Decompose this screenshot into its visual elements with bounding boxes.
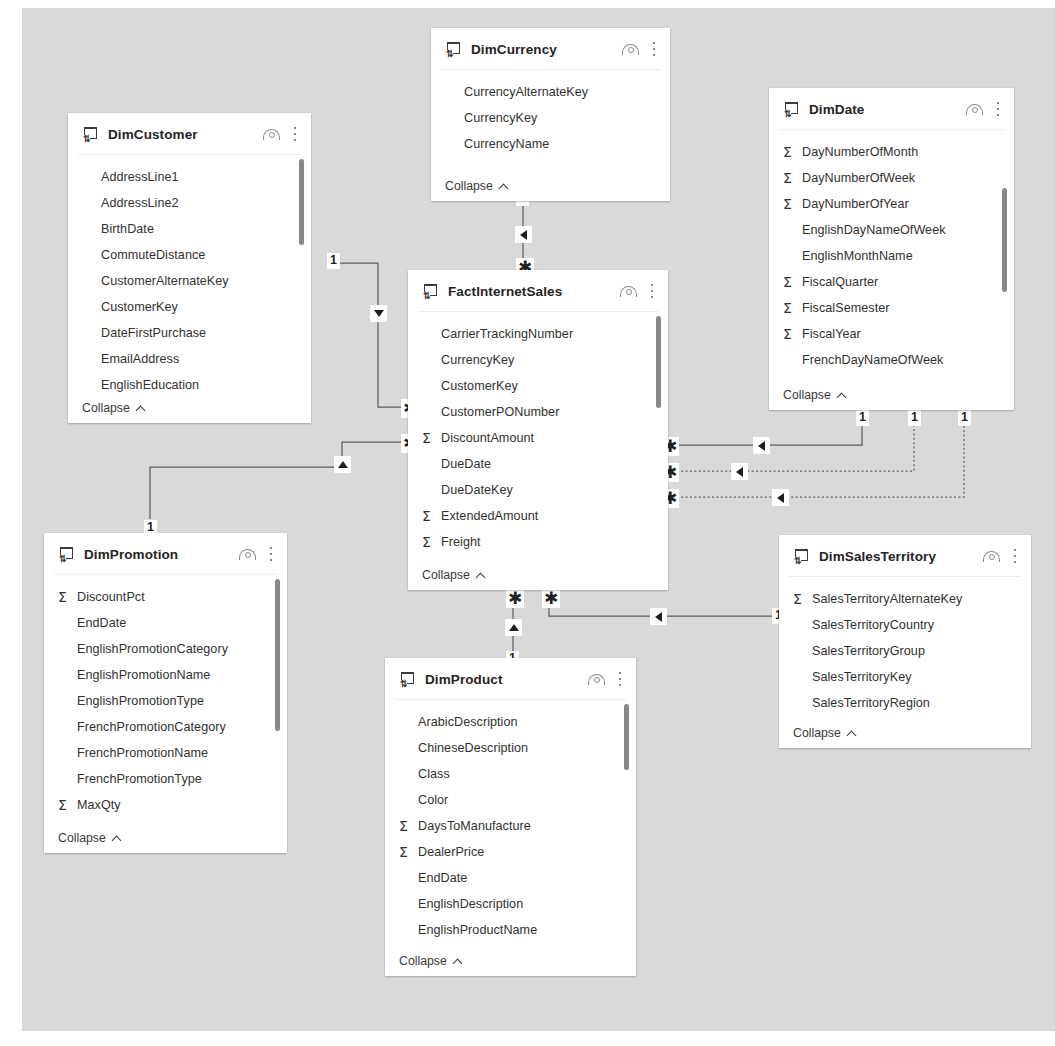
cross-filter-arrow-dimproduct[interactable] [505, 619, 522, 636]
field-row[interactable]: ΣSalesTerritoryKey [779, 664, 1031, 690]
field-row[interactable]: ΣSalesTerritoryRegion [779, 690, 1031, 716]
field-row[interactable]: ΣBirthDate [68, 216, 311, 242]
field-row[interactable]: ΣSalesTerritoryAlternateKey [779, 586, 1031, 612]
more-options-icon[interactable] [289, 126, 301, 143]
field-row[interactable]: ΣArabicDescription [385, 709, 636, 735]
field-row[interactable]: ΣCustomerAlternateKey [68, 268, 311, 294]
field-row[interactable]: ΣCustomerPONumber [408, 399, 668, 425]
field-row[interactable]: ΣEnglishPromotionCategory [44, 636, 287, 662]
more-options-icon[interactable] [646, 283, 658, 300]
collapse-button[interactable]: Collapse [44, 823, 287, 853]
field-row[interactable]: ΣSalesTerritoryCountry [779, 612, 1031, 638]
model-diagram-canvas[interactable]: 1 ✱ 1 ✱ 1 ✱ ✱ 1 ✱ 1 ✱ 1 ✱ 1 ✱ 1 ⇅ DimCur… [22, 8, 1055, 1031]
vertical-scrollbar[interactable] [1002, 188, 1007, 292]
field-row[interactable]: ΣEnglishPromotionType [44, 688, 287, 714]
cross-filter-arrow-dimdate-2[interactable] [731, 463, 748, 480]
cross-filter-arrow-dimdate-3[interactable] [772, 489, 789, 506]
field-row[interactable]: ΣDueDate [408, 451, 668, 477]
table-card-header[interactable]: ⇅ FactInternetSales [408, 270, 668, 312]
vertical-scrollbar[interactable] [275, 579, 280, 731]
cross-filter-arrow-dimpromotion[interactable] [334, 456, 351, 473]
field-row[interactable]: ΣMaxQty [44, 792, 287, 818]
field-row[interactable]: ΣEnglishMonthName [769, 243, 1014, 269]
table-card-dimcustomer[interactable]: ⇅ DimCustomer ΣAddressLine1 ΣAddressLine… [68, 113, 311, 423]
field-row[interactable]: ΣAddressLine2 [68, 190, 311, 216]
table-card-header[interactable]: ⇅ DimCustomer [68, 113, 311, 155]
field-row[interactable]: ΣDiscountPct [44, 584, 287, 610]
field-row[interactable]: ΣEndDate [44, 610, 287, 636]
field-row[interactable]: ΣEnglishDayNameOfWeek [769, 217, 1014, 243]
cross-filter-arrow-dimcustomer[interactable] [370, 305, 387, 322]
field-row[interactable]: ΣDaysToManufacture [385, 813, 636, 839]
field-row[interactable]: ΣFrenchPromotionCategory [44, 714, 287, 740]
field-row[interactable]: ΣEnglishDescription [385, 891, 636, 917]
field-row[interactable]: ΣDayNumberOfMonth [769, 139, 1014, 165]
eye-icon[interactable] [239, 548, 256, 560]
table-card-dimdate[interactable]: ⇅ DimDate ΣDayNumberOfMonth ΣDayNumberOf… [769, 88, 1014, 410]
field-row[interactable]: ΣEmailAddress [68, 346, 311, 372]
more-options-icon[interactable] [1009, 548, 1021, 565]
table-card-header[interactable]: ⇅ DimProduct [385, 658, 636, 700]
cross-filter-arrow-dimcurrency[interactable] [515, 226, 532, 243]
table-card-header[interactable]: ⇅ DimSalesTerritory [779, 535, 1031, 577]
collapse-button[interactable]: Collapse [431, 171, 670, 201]
field-row[interactable]: ΣCurrencyAlternateKey [431, 79, 670, 105]
table-card-dimcurrency[interactable]: ⇅ DimCurrency ΣCurrencyAlternateKey ΣCur… [431, 28, 670, 201]
field-row[interactable]: ΣDateFirstPurchase [68, 320, 311, 346]
field-row[interactable]: ΣFiscalYear [769, 321, 1014, 347]
table-card-header[interactable]: ⇅ DimPromotion [44, 533, 287, 575]
table-card-dimpromotion[interactable]: ⇅ DimPromotion ΣDiscountPct ΣEndDate ΣEn… [44, 533, 287, 853]
field-row[interactable]: ΣFreight [408, 529, 668, 555]
more-options-icon[interactable] [648, 41, 660, 58]
field-row[interactable]: ΣFrenchDayNameOfWeek [769, 347, 1014, 373]
eye-icon[interactable] [966, 103, 983, 115]
field-row[interactable]: ΣAddressLine1 [68, 164, 311, 190]
field-row[interactable]: ΣCurrencyKey [408, 347, 668, 373]
field-row[interactable]: ΣSalesTerritoryGroup [779, 638, 1031, 664]
field-row[interactable]: ΣDealerPrice [385, 839, 636, 865]
field-row[interactable]: ΣDiscountAmount [408, 425, 668, 451]
eye-icon[interactable] [983, 550, 1000, 562]
field-row[interactable]: ΣEnglishProductName [385, 917, 636, 943]
field-row[interactable]: ΣDayNumberOfYear [769, 191, 1014, 217]
table-card-header[interactable]: ⇅ DimDate [769, 88, 1014, 130]
table-card-factinternetsales[interactable]: ⇅ FactInternetSales ΣCarrierTrackingNumb… [408, 270, 668, 590]
field-row[interactable]: ΣExtendedAmount [408, 503, 668, 529]
cross-filter-arrow-dimsalesterritory[interactable] [650, 608, 667, 625]
eye-icon[interactable] [620, 285, 637, 297]
field-row[interactable]: ΣCurrencyName [431, 131, 670, 157]
table-card-header[interactable]: ⇅ DimCurrency [431, 28, 670, 70]
field-row[interactable]: ΣCommuteDistance [68, 242, 311, 268]
collapse-button[interactable]: Collapse [408, 560, 668, 590]
field-row[interactable]: ΣFiscalQuarter [769, 269, 1014, 295]
field-row[interactable]: ΣClass [385, 761, 636, 787]
more-options-icon[interactable] [614, 671, 626, 688]
field-row[interactable]: ΣDueDateKey [408, 477, 668, 503]
vertical-scrollbar[interactable] [656, 316, 661, 408]
collapse-button[interactable]: Collapse [769, 380, 1014, 410]
vertical-scrollbar[interactable] [624, 704, 629, 770]
collapse-button[interactable]: Collapse [779, 718, 1031, 748]
field-row[interactable]: ΣEndDate [385, 865, 636, 891]
field-row[interactable]: ΣCustomerKey [68, 294, 311, 320]
collapse-button[interactable]: Collapse [68, 393, 311, 423]
eye-icon[interactable] [588, 673, 605, 685]
table-card-dimsalesterritory[interactable]: ⇅ DimSalesTerritory ΣSalesTerritoryAlter… [779, 535, 1031, 748]
more-options-icon[interactable] [992, 101, 1004, 118]
vertical-scrollbar[interactable] [299, 159, 304, 245]
field-row[interactable]: ΣFrenchPromotionName [44, 740, 287, 766]
field-row[interactable]: ΣCurrencyKey [431, 105, 670, 131]
more-options-icon[interactable] [265, 546, 277, 563]
field-row[interactable]: ΣDayNumberOfWeek [769, 165, 1014, 191]
field-row[interactable]: ΣCarrierTrackingNumber [408, 321, 668, 347]
field-row[interactable]: ΣFrenchPromotionType [44, 766, 287, 792]
eye-icon[interactable] [263, 128, 280, 140]
field-row[interactable]: ΣChineseDescription [385, 735, 636, 761]
field-row[interactable]: ΣEnglishPromotionName [44, 662, 287, 688]
cross-filter-arrow-dimdate-1[interactable] [753, 437, 770, 454]
table-card-dimproduct[interactable]: ⇅ DimProduct ΣArabicDescription ΣChinese… [385, 658, 636, 976]
collapse-button[interactable]: Collapse [385, 946, 636, 976]
field-row[interactable]: ΣFiscalSemester [769, 295, 1014, 321]
eye-icon[interactable] [622, 43, 639, 55]
field-row[interactable]: ΣCustomerKey [408, 373, 668, 399]
